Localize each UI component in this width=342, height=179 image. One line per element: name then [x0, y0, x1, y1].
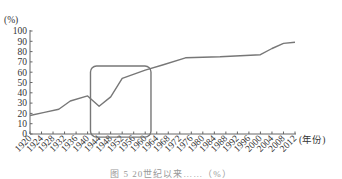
y-tick-label: 50 — [18, 78, 28, 88]
series-line — [30, 42, 295, 115]
y-tick-label: 80 — [18, 47, 28, 57]
y-tick-label: 100 — [13, 26, 28, 36]
y-tick-label: 20 — [18, 109, 28, 119]
highlight-rect — [90, 66, 150, 137]
highlight-box — [90, 66, 150, 137]
figure-caption: 图 5 20世纪以来……（%） — [0, 167, 342, 179]
y-axis: 0102030405060708090100 — [13, 26, 33, 139]
y-tick-label: 10 — [18, 119, 28, 129]
y-unit-text: (%) — [4, 15, 18, 26]
line-chart: (%) 0102030405060708090100 1920192419281… — [0, 0, 342, 179]
data-line — [30, 42, 295, 115]
y-tick-label: 60 — [18, 68, 28, 78]
x-axis: 1920192419281932193619401944194819521956… — [13, 132, 299, 154]
y-tick-label: 30 — [18, 98, 28, 108]
y-axis-unit-label: (%) — [4, 15, 18, 26]
y-tick-label: 70 — [18, 57, 28, 67]
y-tick-label: 40 — [18, 88, 28, 98]
x-axis-unit-label: (年份) — [299, 134, 325, 146]
y-tick-label: 90 — [18, 37, 28, 47]
x-unit-text: (年份) — [299, 134, 325, 146]
